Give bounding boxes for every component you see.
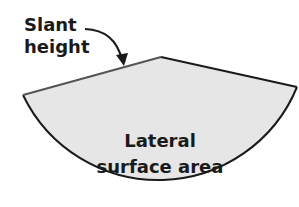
slant-label-line2: height	[24, 36, 90, 58]
slant-height-label: Slant height	[24, 14, 90, 58]
center-label-line1: Lateral	[90, 128, 230, 154]
center-label-line2: surface area	[90, 154, 230, 180]
arrow-head-icon	[116, 53, 128, 66]
slant-label-line1: Slant	[24, 14, 90, 36]
lateral-surface-label: Lateral surface area	[90, 128, 230, 180]
diagram-canvas: Slant height Lateral surface area	[0, 0, 299, 207]
